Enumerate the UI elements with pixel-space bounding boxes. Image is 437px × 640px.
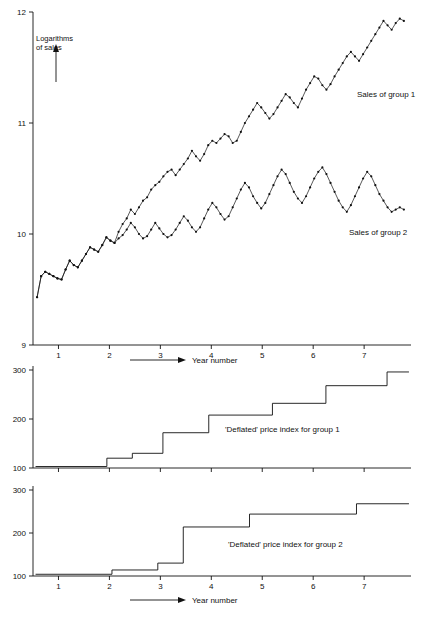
price-index-group2-chart: 1002003001234567Year number 'Deflated' p… (0, 478, 437, 640)
series-point (175, 174, 177, 176)
series-point (236, 140, 238, 142)
series-point (264, 202, 266, 204)
series-point (77, 266, 79, 268)
series-point (256, 102, 258, 104)
series-point (297, 197, 299, 199)
series-point (305, 89, 307, 91)
series-point (162, 175, 164, 177)
series-point (391, 29, 393, 31)
series-point (48, 273, 50, 275)
sales-group2-label: Sales of group 2 (349, 228, 407, 237)
series-point (248, 115, 250, 117)
series-point (293, 191, 295, 193)
series-point (130, 208, 132, 210)
series-point (109, 240, 111, 242)
series-point (191, 226, 193, 228)
series-point (317, 171, 319, 173)
series-point (333, 75, 335, 77)
series-point (276, 106, 278, 108)
series-point (211, 140, 213, 142)
series-point (252, 109, 254, 111)
y-tick-label: 9 (22, 341, 27, 350)
series-point (313, 177, 315, 179)
series-point (166, 171, 168, 173)
series-point (65, 268, 67, 270)
x-tick-label: 6 (311, 582, 316, 591)
series-point (281, 169, 283, 171)
series-point (260, 207, 262, 209)
series-point (81, 260, 83, 262)
series-point (154, 184, 156, 186)
series-point (223, 133, 225, 135)
series-point (166, 236, 168, 238)
series-point (195, 231, 197, 233)
series-point (350, 51, 352, 53)
series-point (301, 202, 303, 204)
series-point (317, 78, 319, 80)
x-tick-label: 1 (56, 582, 61, 591)
series-point (329, 83, 331, 85)
series-point (399, 18, 401, 20)
series-point (252, 195, 254, 197)
step-line (36, 372, 409, 467)
series-point (289, 96, 291, 98)
series-point (142, 200, 144, 202)
series-point (248, 186, 250, 188)
x-tick-label: 3 (158, 582, 163, 591)
y-tick-label: 300 (13, 486, 27, 495)
price-index-group1-label: 'Deflated' price index for group 1 (225, 425, 340, 434)
series-point (228, 135, 230, 137)
series-point (346, 211, 348, 213)
series-point (223, 218, 225, 220)
series-point (158, 181, 160, 183)
series-point (374, 184, 376, 186)
step-line (36, 504, 409, 575)
series-point (97, 251, 99, 253)
series-point (358, 60, 360, 62)
series-point (395, 22, 397, 24)
series-point (321, 84, 323, 86)
series-point (126, 228, 128, 230)
series-point (256, 202, 258, 204)
series-point (36, 296, 38, 298)
series-point (187, 157, 189, 159)
series-point (399, 206, 401, 208)
series-point (179, 222, 181, 224)
series-point (215, 206, 217, 208)
year-arrow-head (178, 597, 186, 603)
series-point (329, 182, 331, 184)
series-point (146, 196, 148, 198)
x-tick-label: 5 (260, 582, 265, 591)
series-point (374, 33, 376, 35)
sales-group1-label: Sales of group 1 (357, 90, 415, 99)
series-point (272, 184, 274, 186)
series-point (313, 75, 315, 77)
series-point (370, 175, 372, 177)
series-point (264, 112, 266, 114)
series-point (268, 117, 270, 119)
series-point (378, 193, 380, 195)
series-point (386, 24, 388, 26)
series-point (358, 186, 360, 188)
series-point (122, 234, 124, 236)
series-point (101, 244, 103, 246)
y-tick-label: 100 (13, 572, 27, 581)
series-point (321, 166, 323, 168)
series-point (44, 271, 46, 273)
series-point (285, 93, 287, 95)
y-tick-label: 100 (13, 464, 27, 473)
series-point (370, 40, 372, 42)
series-point (342, 62, 344, 64)
series-point (183, 163, 185, 165)
series-point (203, 217, 205, 219)
series-point (138, 206, 140, 208)
series-point (276, 175, 278, 177)
series-point (56, 277, 58, 279)
series-point (244, 122, 246, 124)
series-point (117, 231, 119, 233)
y-tick-label: 10 (17, 230, 26, 239)
series-point (342, 206, 344, 208)
series-point (113, 242, 115, 244)
series-point (179, 169, 181, 171)
year-number-label: Year number (192, 596, 238, 605)
